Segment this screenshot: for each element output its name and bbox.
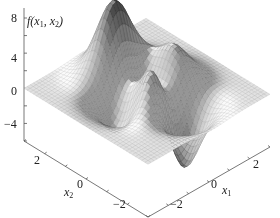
x1-tick-0: 0 [211, 178, 217, 190]
z-axis-label: f(x1, x2) [27, 15, 63, 29]
x2-tick-neg2: −2 [113, 198, 126, 210]
x1-tick-neg2: −2 [170, 198, 183, 210]
z-tick-8: 8 [11, 12, 17, 24]
z-tick-4: 4 [11, 52, 17, 64]
z-tick-neg4: −4 [4, 118, 17, 130]
x1-axis-label: x1 [222, 184, 231, 198]
surface-plot-canvas [0, 0, 280, 218]
x2-tick-0: 0 [77, 178, 83, 190]
x2-axis-label: x2 [64, 186, 73, 200]
z-tick-0: 0 [11, 85, 17, 97]
x1-tick-2: 2 [253, 158, 259, 170]
x2-tick-2: 2 [34, 154, 40, 166]
